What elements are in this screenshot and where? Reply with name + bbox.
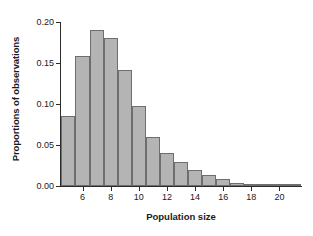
- histogram-bar: [132, 106, 146, 186]
- x-axis-tick-label: 6: [71, 193, 95, 202]
- y-axis-tick: [56, 22, 60, 23]
- x-axis-tick: [279, 187, 280, 191]
- histogram-bar: [258, 184, 272, 186]
- x-axis-tick-label: 14: [183, 193, 207, 202]
- histogram-bar: [287, 184, 301, 186]
- x-axis-tick-label: 12: [155, 193, 179, 202]
- x-axis-tick: [223, 187, 224, 191]
- histogram-bar: [146, 137, 160, 186]
- y-axis-tick-label: 0.00: [26, 182, 54, 191]
- x-axis-title: Population size: [60, 211, 302, 222]
- y-axis-tick-label: 0.05: [26, 141, 54, 150]
- x-axis-tick-label: 18: [239, 193, 263, 202]
- x-axis-tick: [111, 187, 112, 191]
- x-axis-tick: [139, 187, 140, 191]
- x-axis-tick: [83, 187, 84, 191]
- y-axis-tick-label: 0.10: [26, 100, 54, 109]
- x-axis-tick-label: 8: [99, 193, 123, 202]
- plot-area: 68101214161820: [60, 22, 302, 186]
- y-axis-tick-label: 0.15: [26, 59, 54, 68]
- y-axis-tick: [56, 104, 60, 105]
- histogram-bar: [188, 170, 202, 186]
- x-axis-tick-label: 10: [127, 193, 151, 202]
- y-axis-tick: [56, 186, 60, 187]
- x-axis-tick: [251, 187, 252, 191]
- y-axis-title: Proportions of observations: [8, 6, 24, 192]
- histogram-bar: [118, 70, 132, 186]
- histogram-bar: [61, 116, 75, 186]
- histogram-bar: [160, 153, 174, 186]
- x-axis-line: [60, 186, 302, 187]
- histogram-bar: [216, 179, 230, 186]
- histogram-bar: [272, 184, 286, 186]
- x-axis-tick: [167, 187, 168, 191]
- y-axis-tick: [56, 145, 60, 146]
- histogram-bar: [244, 184, 258, 186]
- histogram-bar: [90, 30, 104, 186]
- x-axis-tick: [195, 187, 196, 191]
- x-axis-tick-label: 20: [267, 193, 291, 202]
- histogram-bar: [104, 38, 118, 186]
- histogram-bar: [202, 175, 216, 186]
- y-axis-tick: [56, 63, 60, 64]
- x-axis-tick-label: 16: [211, 193, 235, 202]
- y-axis-tick-label: 0.20: [26, 18, 54, 27]
- histogram-bar: [75, 56, 89, 186]
- histogram-figure: Proportions of observations Population s…: [0, 0, 313, 236]
- histogram-bar: [230, 183, 244, 186]
- histogram-bar: [174, 162, 188, 186]
